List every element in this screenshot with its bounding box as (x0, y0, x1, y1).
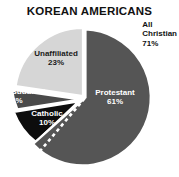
annotation-all-christian: All Christian 71% (142, 20, 177, 48)
annotation-line-1: All (142, 20, 152, 29)
annotation-line-2: Christian (142, 29, 177, 38)
annotation-value: 71% (142, 39, 158, 48)
pie-slice-unaffiliated[interactable] (16, 28, 83, 96)
pie-chart-figure: KOREAN AMERICANS All Christian 71% Prote… (0, 0, 179, 177)
